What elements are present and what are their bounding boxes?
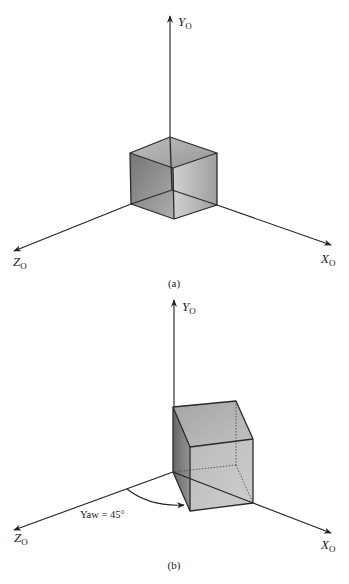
x-axis-b — [253, 503, 331, 533]
yaw-annotation: Yaw = 45° — [80, 509, 125, 520]
y-axis-label-a: YO — [178, 14, 192, 31]
x-axis-label-a: XO — [320, 251, 336, 268]
caption-a: (a) — [168, 277, 181, 290]
figure-b: Yaw = 45° YO ZO XO (b) — [14, 299, 336, 572]
yaw-rotation-diagram: YO ZO XO (a) Ya — [0, 0, 349, 584]
z-axis-label-a: ZO — [13, 254, 27, 271]
figure-a: YO ZO XO (a) — [13, 14, 336, 290]
caption-b: (b) — [168, 559, 181, 572]
z-axis-a — [14, 204, 131, 251]
x-axis-a — [217, 205, 331, 245]
cube-a — [130, 137, 217, 219]
cube-b — [173, 401, 253, 511]
z-axis-label-b: ZO — [14, 530, 28, 547]
yaw-arc-arrow — [127, 489, 184, 505]
y-axis-label-b: YO — [182, 299, 196, 316]
x-axis-label-b: XO — [320, 537, 336, 554]
